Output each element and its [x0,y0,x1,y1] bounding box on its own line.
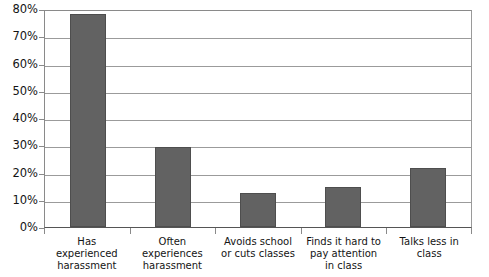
x-axis-label-2-line-1: or cuts classes [215,248,301,260]
y-tick-label-20: 20% [0,168,38,180]
bars-layer [45,11,471,227]
y-tick-label-80: 80% [0,4,38,16]
x-axis-label-1: Often experiences harassment [130,236,216,273]
bar-talks-less-in-class [410,168,446,227]
x-tick-mark-0 [44,228,45,234]
x-axis-label-0-line-1: experienced [44,248,130,260]
x-axis-label-4: Talks less in class [386,236,472,260]
bar-avoids-school-or-cuts-classes [240,193,276,227]
bar-slot-1 [130,11,215,227]
bar-finds-it-hard-to-pay-attention [325,187,361,228]
x-axis-label-1-line-0: Often [130,236,216,248]
y-tick-label-70: 70% [0,32,38,44]
x-tick-mark-2 [215,228,216,234]
x-tick-mark-1 [130,228,131,234]
x-axis-label-3-line-1: pay attention [301,248,387,260]
bar-chart: 80% 70% 60% 50% 40% 30% 20% 10% 0% [0,0,489,277]
x-axis-label-2: Avoids school or cuts classes [215,236,301,260]
x-axis-label-3-line-0: Finds it hard to [301,236,387,248]
y-tick-label-50: 50% [0,86,38,98]
y-tick-label-40: 40% [0,113,38,125]
y-tick-label-10: 10% [0,195,38,207]
bar-slot-0 [45,11,130,227]
x-axis-label-2-line-0: Avoids school [215,236,301,248]
x-axis-label-4-line-1: class [386,248,472,260]
x-axis-label-1-line-1: experiences [130,248,216,260]
y-tick-label-0: 0% [0,222,38,234]
y-tick-label-30: 30% [0,141,38,153]
x-tick-mark-4 [386,228,387,234]
x-tick-mark-3 [301,228,302,234]
x-axis-label-0: Has experienced harassment [44,236,130,273]
plot-area [44,10,472,228]
bar-slot-2 [215,11,300,227]
x-tick-mark-5 [471,228,472,234]
x-axis-label-0-line-2: harassment [44,260,130,272]
x-axis-label-3: Finds it hard to pay attention in class [301,236,387,273]
x-axis-label-1-line-2: harassment [130,260,216,272]
bar-often-experiences-harassment [155,147,191,227]
x-axis-label-0-line-0: Has [44,236,130,248]
x-axis-label-3-line-2: in class [301,260,387,272]
y-axis: 80% 70% 60% 50% 40% 30% 20% 10% 0% [0,0,38,240]
y-tick-label-60: 60% [0,59,38,71]
bar-slot-3 [301,11,386,227]
x-axis-label-4-line-0: Talks less in [386,236,472,248]
bar-slot-4 [386,11,471,227]
x-axis: Has experienced harassment Often experie… [44,236,472,277]
bar-has-experienced-harassment [70,14,106,227]
